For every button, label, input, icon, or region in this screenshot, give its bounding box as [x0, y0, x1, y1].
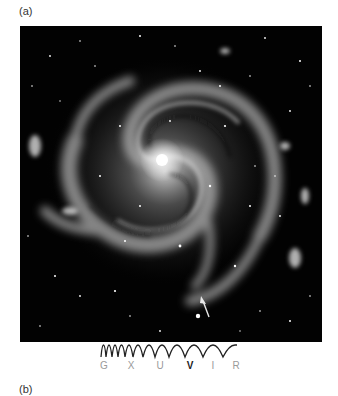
- panel-label-b: (b): [19, 383, 32, 395]
- band-label-v: V: [187, 360, 194, 371]
- band-label-g: G: [100, 360, 108, 371]
- galaxy-image: [20, 26, 322, 342]
- band-labels: G X U V I R: [100, 360, 240, 372]
- band-label-i: I: [212, 360, 215, 371]
- panel-label-a: (a): [19, 5, 32, 17]
- band-label-u: U: [156, 360, 163, 371]
- band-label-x: X: [128, 360, 135, 371]
- band-label-r: R: [232, 360, 239, 371]
